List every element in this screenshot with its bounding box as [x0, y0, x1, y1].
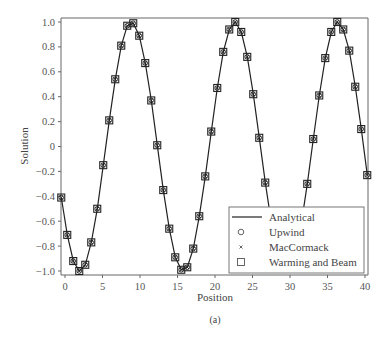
- y-axis-label: Solution: [18, 127, 30, 165]
- x-tick-label: 10: [135, 281, 146, 292]
- legend: AnalyticalUpwindMacCormackWarming and Be…: [229, 207, 364, 273]
- y-tick-label: 0.4: [42, 91, 56, 102]
- solution-chart: 1.00.80.60.40.20−0.2−0.4−0.6−0.8−1.00510…: [0, 0, 390, 341]
- x-axis-label: Position: [197, 291, 234, 303]
- legend-label: Warming and Beam: [269, 256, 357, 268]
- maccormack-marker: [77, 269, 81, 273]
- legend-label: Upwind: [269, 226, 305, 238]
- maccormack-marker: [335, 20, 339, 24]
- x-tick-label: 5: [100, 281, 105, 292]
- y-tick-label: 0.6: [42, 66, 55, 77]
- maccormack-marker: [233, 20, 237, 24]
- x-tick-label: 40: [360, 281, 371, 292]
- y-tick-label: 0.2: [42, 116, 55, 127]
- x-tick-label: 30: [285, 281, 296, 292]
- figure-caption: (a): [209, 314, 220, 326]
- y-tick-label: −0.8: [36, 241, 55, 252]
- x-tick-label: 0: [62, 281, 67, 292]
- y-tick-label: 1.0: [42, 17, 55, 28]
- y-tick-label: 0: [50, 141, 55, 152]
- legend-label: Analytical: [269, 211, 315, 223]
- x-tick-label: 35: [322, 281, 333, 292]
- y-tick-label: −1.0: [36, 266, 55, 277]
- legend-label: MacCormack: [269, 241, 329, 253]
- y-tick-label: −0.2: [36, 166, 55, 177]
- x-tick-label: 25: [247, 281, 258, 292]
- y-tick-label: 0.8: [42, 41, 55, 52]
- y-tick-label: −0.6: [36, 216, 55, 227]
- x-tick-label: 15: [172, 281, 183, 292]
- y-tick-label: −0.4: [36, 191, 56, 202]
